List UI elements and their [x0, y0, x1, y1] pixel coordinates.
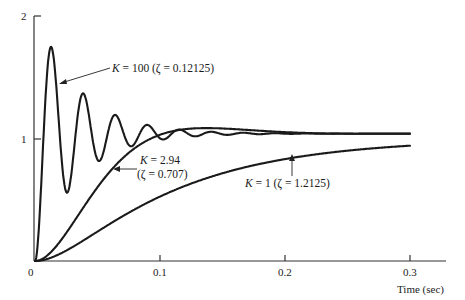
annotation-arrow-k-100 — [61, 68, 110, 83]
curve-k-1 — [35, 146, 410, 261]
annotation-text-line2: (ζ = 0.707) — [137, 168, 188, 181]
x-tick-label-0.2: 0.2 — [278, 266, 292, 278]
annotation-text: = 100 (ζ = 0.12125) — [120, 62, 215, 75]
arrowhead-icon — [59, 79, 67, 84]
annotation-text: = 1 (ζ = 1.2125) — [253, 177, 330, 190]
x-tick-label-0: 0 — [28, 266, 34, 278]
axes — [34, 16, 446, 261]
curve-k-2.94 — [35, 128, 410, 261]
x-axis-label: Time (sec) — [397, 283, 444, 296]
svg-text:K = 100 (ζ = 0.12125): K = 100 (ζ = 0.12125) — [111, 62, 214, 75]
step-response-chart: 2 1 0 0.1 0.2 0.3 Time (sec) K = 100 (ζ … — [0, 0, 465, 300]
y-tick-label-2: 2 — [21, 10, 27, 22]
curve-k-100 — [35, 47, 410, 261]
x-tick-label-0.1: 0.1 — [153, 266, 167, 278]
y-tick-label-1: 1 — [21, 133, 27, 145]
x-tick-label-0.3: 0.3 — [403, 266, 417, 278]
annotation-text: = 2.94 — [148, 154, 181, 166]
annotation-k-100: K = 100 (ζ = 0.12125) — [59, 62, 214, 84]
svg-text:K = 2.94: K = 2.94 — [139, 154, 180, 166]
svg-text:K = 1 (ζ = 1.2125): K = 1 (ζ = 1.2125) — [244, 177, 330, 190]
